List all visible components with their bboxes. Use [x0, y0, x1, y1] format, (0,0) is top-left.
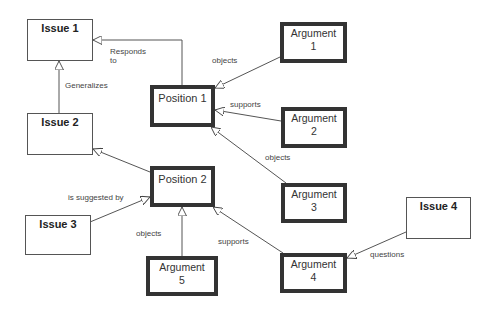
node-label: Issue 2	[28, 114, 92, 129]
edge-label-responds-to: Responds to	[110, 47, 146, 65]
node-label: Argument 4	[284, 257, 343, 284]
node-argument-4[interactable]: Argument 4	[280, 253, 347, 293]
edge-label-supports-2: supports	[230, 100, 261, 109]
node-argument-2[interactable]: Argument 2	[281, 107, 347, 148]
node-label: Issue 4	[407, 198, 470, 213]
node-label: Issue 1	[28, 20, 92, 35]
edge-label-suggested-by: is suggested by	[68, 193, 124, 202]
edge-arg2-supports	[215, 110, 281, 121]
ibis-diagram: Issue 1 Issue 2 Issue 3 Issue 4 Position…	[0, 0, 495, 315]
edge-label-objects-1: objects	[212, 56, 237, 65]
node-label: Argument 5	[150, 260, 214, 287]
node-argument-3[interactable]: Argument 3	[281, 183, 347, 223]
node-label: Issue 3	[26, 216, 90, 231]
node-argument-1[interactable]: Argument 1	[280, 22, 347, 63]
node-label: Argument 3	[285, 187, 343, 214]
edge-label-objects-3: objects	[265, 153, 290, 162]
node-issue-1[interactable]: Issue 1	[27, 19, 93, 61]
node-issue-4[interactable]: Issue 4	[406, 197, 471, 239]
edge-arg4-supports	[213, 207, 283, 253]
node-label: Position 2	[154, 170, 211, 186]
node-label: Position 1	[154, 89, 211, 105]
node-label: Argument 2	[285, 111, 343, 138]
edge-label-questions: questions	[370, 250, 404, 259]
node-issue-2[interactable]: Issue 2	[27, 113, 93, 155]
node-position-2[interactable]: Position 2	[150, 166, 215, 207]
edge-label-generalizes: Generalizes	[65, 81, 108, 90]
node-label: Argument 1	[284, 26, 343, 53]
edge-label-objects-5: objects	[136, 229, 161, 238]
node-argument-5[interactable]: Argument 5	[146, 256, 218, 296]
edge-label-supports-4: supports	[218, 237, 249, 246]
node-position-1[interactable]: Position 1	[150, 85, 215, 127]
node-issue-3[interactable]: Issue 3	[25, 215, 91, 255]
edge-pos2-issue2	[93, 149, 150, 172]
